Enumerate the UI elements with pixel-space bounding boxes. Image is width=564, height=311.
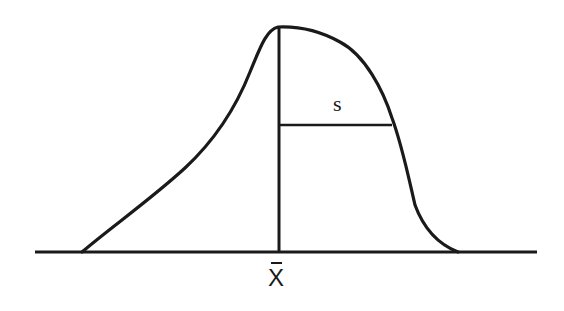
mean-bar-overline	[271, 262, 282, 264]
mean-label-text: X	[268, 264, 284, 291]
std-dev-label: s	[333, 93, 342, 115]
distribution-curve	[82, 27, 458, 252]
mean-label: X	[268, 266, 284, 290]
